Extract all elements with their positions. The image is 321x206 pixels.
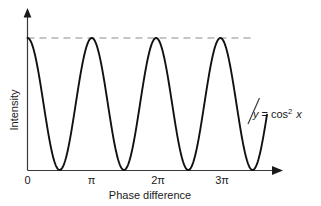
- x-tick-label-3pi: 3π: [215, 174, 229, 186]
- equation-exponent: 2: [288, 107, 292, 116]
- y-axis-arrowhead: [24, 8, 32, 18]
- x-tick-label-0: 0: [24, 174, 30, 186]
- chart-canvas: 0 π 2π 3π Phase difference Intensity y=c…: [0, 0, 321, 206]
- cos-squared-curve: [28, 38, 267, 170]
- x-tick-label-2pi: 2π: [151, 174, 165, 186]
- figure-container: 0 π 2π 3π Phase difference Intensity y=c…: [0, 0, 321, 206]
- equation-y-symbol: y: [252, 108, 260, 120]
- x-axis-title: Phase difference: [109, 189, 191, 201]
- y-axis-title: Intensity: [8, 89, 20, 130]
- equation-equals-sign: =: [262, 108, 268, 120]
- x-axis-arrowhead: [272, 166, 283, 175]
- x-tick-label-pi: π: [88, 174, 96, 186]
- equation-x-variable: x: [295, 108, 302, 120]
- equation-text: y=cos2x: [252, 107, 302, 120]
- equation-annotation: y=cos2x: [252, 107, 302, 120]
- equation-cos-function: cos: [271, 108, 289, 120]
